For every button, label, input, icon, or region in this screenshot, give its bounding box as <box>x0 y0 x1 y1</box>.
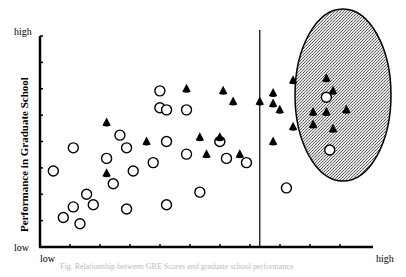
circle-point <box>241 158 251 168</box>
circle-point <box>162 137 172 147</box>
circle-point <box>148 158 158 168</box>
triangle-point <box>182 84 190 93</box>
circle-point <box>162 200 172 210</box>
triangle-point <box>229 96 237 105</box>
circle-point <box>122 143 132 153</box>
circle-point <box>68 143 78 153</box>
triangle-point <box>202 149 210 158</box>
circle-point <box>102 153 112 163</box>
circle-point <box>58 212 68 222</box>
triangle-point <box>236 149 244 158</box>
high-score-region <box>295 9 391 181</box>
y-axis-high-label: high <box>14 26 32 37</box>
circle-point <box>182 149 192 159</box>
circle-point <box>281 183 291 193</box>
circle-point <box>115 130 125 140</box>
circle-point <box>162 105 172 115</box>
circle-point <box>68 202 78 212</box>
triangle-point <box>102 168 110 177</box>
circle-point <box>155 86 165 96</box>
triangle-point <box>256 96 264 105</box>
triangle-point <box>269 99 277 108</box>
figure-caption: Fig. Relationship between GRE Scores and… <box>60 262 294 271</box>
x-axis-low-label: low <box>40 253 56 264</box>
y-axis-low-label: low <box>14 242 30 253</box>
circle-point <box>88 200 98 210</box>
circle-point <box>325 145 335 155</box>
triangle-point <box>289 122 297 131</box>
triangle-point <box>219 86 227 95</box>
circle-point <box>108 179 118 189</box>
circle-point <box>48 166 58 176</box>
circle-point <box>182 105 192 115</box>
circle-point <box>221 153 231 163</box>
triangle-point <box>142 137 150 146</box>
circle-point <box>122 204 132 214</box>
circle-point <box>195 187 205 197</box>
x-axis-high-label: high <box>376 253 394 264</box>
scatter-chart: high low low high Performance in Graduat… <box>0 0 406 277</box>
y-axis-title: Performance in Graduate School <box>18 77 30 232</box>
triangle-point <box>196 132 204 141</box>
triangle-point <box>269 88 277 97</box>
circle-point <box>82 189 92 199</box>
circle-point <box>75 219 85 229</box>
circle-point <box>128 166 138 176</box>
triangle-point <box>102 118 110 127</box>
triangle-point <box>269 137 277 146</box>
